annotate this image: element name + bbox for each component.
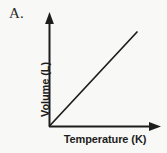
data-line-series-0 [50,32,138,126]
figure-panel: A. Volume (L) Temperature (K) [0,0,167,153]
x-axis-arrowhead-icon [149,122,161,131]
x-axis-label: Temperature (K) [49,134,161,145]
plot-area [0,0,167,153]
y-axis-label: Volume (L) [40,17,51,117]
